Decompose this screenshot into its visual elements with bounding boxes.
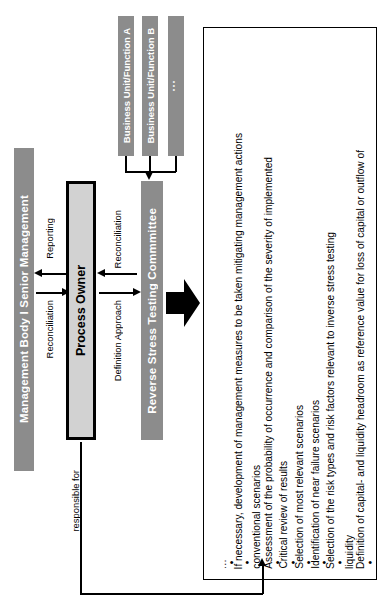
list-item: Definition of capital- and liquidity hea… [356, 34, 372, 569]
process-owner-label: Process Owner [74, 265, 88, 356]
reporting-label: Reporting [44, 218, 55, 259]
business-unit-more-label: ... [170, 80, 181, 92]
bullet-text: Selection of the risk types and risk fac… [326, 232, 337, 569]
list-item: Identification of near failure scenarios… [311, 34, 327, 569]
bullet-marker: • [368, 557, 372, 568]
business-unit-more: ... [168, 16, 184, 156]
list-item: Critical review of results • [279, 34, 295, 569]
reconciliation-bottom-label: Reconciliation [112, 210, 123, 268]
activities-box: Definition of capital- and liquidity hea… [203, 27, 377, 580]
bullet-text: … [218, 558, 229, 569]
committee-label: Reverse Stress Testing Commmittee [146, 208, 158, 414]
definition-approach-arrowhead [133, 288, 141, 296]
definition-approach-arrow-line [99, 292, 135, 294]
list-item: Selection of the risk types and risk fac… [326, 34, 342, 569]
reconciliation-bottom-arrowhead [97, 269, 105, 277]
reverse-stress-testing-committee-bar: Reverse Stress Testing Commmittee [141, 181, 163, 440]
business-unit-a: Business Unit/Function A [118, 16, 134, 156]
bullet-text: Assessment of the probability of occurre… [264, 157, 275, 569]
list-item: If necessary, development of management … [234, 34, 250, 569]
reporting-arrow-line [40, 273, 66, 275]
responsible-for-arrowhead [258, 558, 266, 566]
business-unit-b: Business Unit/Function B [142, 16, 158, 156]
bullet-text: conventional scenarios [252, 465, 263, 569]
management-body-label: Management Body I Senior Management [18, 195, 30, 423]
list-item: Selection of most relevant scenarios • [295, 34, 311, 569]
bullet-marker: • [338, 557, 342, 568]
process-flow-block-arrow [166, 278, 200, 328]
reporting-arrowhead [34, 269, 42, 277]
activities-list: Definition of capital- and liquidity hea… [204, 28, 376, 579]
responsible-for-label: responsible for [70, 470, 81, 532]
bullet-text: liquidity [345, 535, 356, 569]
process-owner-box: Process Owner [66, 181, 96, 440]
management-body-bar: Management Body I Senior Management [14, 148, 34, 471]
business-unit-a-label: Business Unit/Function A [121, 28, 132, 143]
responsible-for-horizontal [80, 593, 263, 595]
bullet-text: Selection of most relevant scenarios [295, 405, 306, 569]
bu-b-stem [149, 156, 151, 164]
bullet-text: Definition of capital- and liquidity hea… [356, 150, 367, 569]
bullet-text: If necessary, development of management … [234, 133, 245, 569]
definition-approach-label: Definition Approach [112, 300, 123, 381]
bu-a-stem [125, 156, 127, 172]
bullet-text: Identification of near failure scenarios [311, 400, 322, 569]
bullet-text: Critical review of results [279, 461, 290, 569]
list-item: … • [218, 34, 234, 569]
business-unit-b-label: Business Unit/Function B [145, 28, 156, 144]
bullet-marker: • [245, 557, 249, 568]
reconciliation-top-arrow-line [36, 292, 64, 294]
reconciliation-bottom-arrow-line [103, 273, 137, 275]
diagram-canvas: Management Body I Senior Management Repo… [0, 0, 386, 615]
bu-to-committee-arrowhead [145, 172, 153, 180]
reconciliation-top-label: Reconciliation [44, 300, 55, 358]
responsible-for-riser [262, 566, 264, 594]
bu-c-stem [175, 156, 177, 172]
